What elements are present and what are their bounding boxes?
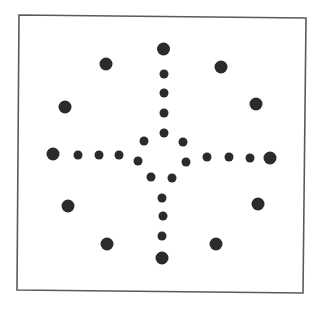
small-dot-top-arm bbox=[160, 89, 169, 98]
large-dot-outer-ring bbox=[101, 238, 114, 251]
large-dot-outer-ring bbox=[100, 58, 113, 71]
dot-pattern-figure bbox=[0, 0, 321, 310]
small-dot-center-ring bbox=[168, 174, 177, 183]
small-dot-top-arm bbox=[160, 70, 169, 79]
large-dot-top-arm bbox=[157, 43, 170, 56]
large-dot-outer-ring bbox=[215, 61, 228, 74]
large-dot-outer-ring bbox=[210, 238, 223, 251]
large-dot-left-arm bbox=[47, 148, 60, 161]
small-dot-left-arm bbox=[115, 151, 124, 160]
large-dot-outer-ring bbox=[250, 98, 263, 111]
small-dot-bottom-arm bbox=[158, 194, 167, 203]
small-dot-top-arm bbox=[160, 109, 169, 118]
small-dot-bottom-arm bbox=[159, 212, 168, 221]
small-dot-right-arm bbox=[246, 154, 255, 163]
large-dot-outer-ring bbox=[252, 198, 265, 211]
small-dot-center-ring bbox=[182, 158, 191, 167]
figure-frame bbox=[17, 15, 306, 293]
small-dot-center-ring bbox=[134, 157, 143, 166]
figure-canvas bbox=[0, 0, 321, 310]
large-dot-bottom-arm bbox=[156, 252, 169, 265]
large-dot-outer-ring bbox=[59, 101, 72, 114]
small-dot-right-arm bbox=[203, 153, 212, 162]
large-dot-right-arm bbox=[264, 152, 277, 165]
small-dot-center-ring bbox=[147, 173, 156, 182]
small-dot-center-ring bbox=[179, 138, 188, 147]
small-dot-right-arm bbox=[225, 153, 234, 162]
dot-group bbox=[47, 43, 277, 265]
small-dot-left-arm bbox=[95, 151, 104, 160]
large-dot-outer-ring bbox=[62, 200, 75, 213]
small-dot-center-ring bbox=[140, 137, 149, 146]
small-dot-bottom-arm bbox=[158, 232, 167, 241]
small-dot-left-arm bbox=[74, 151, 83, 160]
small-dot-center-ring bbox=[160, 129, 169, 138]
